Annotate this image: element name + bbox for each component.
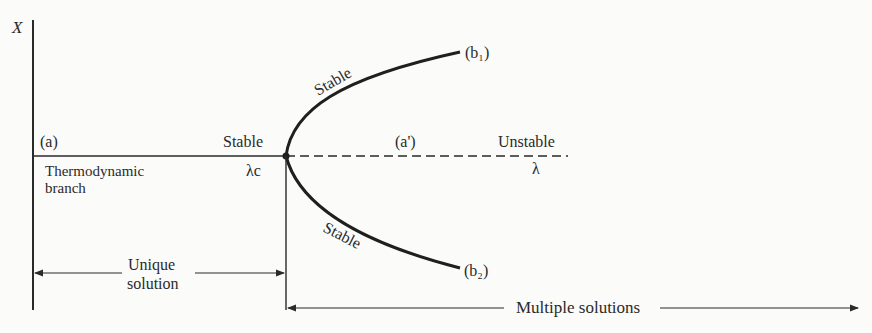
bifurcation-diagram: X (a) Stable (a') Unstable Thermodynamic… xyxy=(0,0,872,333)
thermodynamic-label-line1: Thermodynamic xyxy=(45,163,144,179)
b1-label: (b₁) xyxy=(465,44,489,62)
unstable-label: Unstable xyxy=(498,133,555,150)
branch-a-label: (a) xyxy=(40,133,58,151)
upper-branch-b1 xyxy=(286,52,460,156)
unique-label-line2: solution xyxy=(127,275,179,292)
branch-a-prime-label: (a') xyxy=(395,133,416,151)
y-axis-label: X xyxy=(11,18,23,37)
stable-left-label: Stable xyxy=(223,133,263,150)
lambda-c-label: λc xyxy=(246,162,261,179)
multiple-label: Multiple solutions xyxy=(516,298,640,317)
b2-label: (b₂) xyxy=(464,262,488,280)
lambda-axis-label: λ xyxy=(532,160,540,177)
lower-branch-b2 xyxy=(286,156,460,268)
thermodynamic-label-line2: branch xyxy=(45,180,86,196)
unique-label-line1: Unique xyxy=(128,256,175,274)
